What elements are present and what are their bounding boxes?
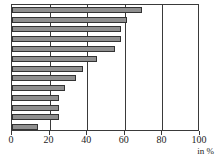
tick-label-100: 100 (186, 134, 212, 145)
bar (12, 17, 127, 23)
x-axis-unit-label: in % (197, 146, 214, 156)
bar (12, 105, 59, 111)
tick-label-60: 60 (111, 134, 137, 145)
plot-area (11, 4, 199, 131)
tick-label-40: 40 (73, 134, 99, 145)
bar-row (12, 105, 200, 111)
bar-row (12, 56, 200, 62)
bar-row (12, 114, 200, 120)
bar (12, 85, 65, 91)
bar (12, 46, 115, 52)
bar-row (12, 124, 200, 130)
bar-row (12, 75, 200, 81)
tick-label-0: 0 (0, 134, 24, 145)
bar-chart: 020406080100 in % (0, 0, 218, 159)
bar-row (12, 66, 200, 72)
bar (12, 7, 142, 13)
tick-label-80: 80 (148, 134, 174, 145)
bar (12, 36, 121, 42)
bar-row (12, 46, 200, 52)
bar-row (12, 7, 200, 13)
bar (12, 114, 59, 120)
tick-label-20: 20 (36, 134, 62, 145)
bar-row (12, 95, 200, 101)
bar-row (12, 85, 200, 91)
bars-group (12, 5, 198, 130)
bar (12, 124, 38, 130)
bar (12, 75, 76, 81)
bar-row (12, 17, 200, 23)
bar-row (12, 26, 200, 32)
bar (12, 95, 59, 101)
bar (12, 26, 121, 32)
bar (12, 56, 97, 62)
bar (12, 66, 83, 72)
bar-row (12, 36, 200, 42)
